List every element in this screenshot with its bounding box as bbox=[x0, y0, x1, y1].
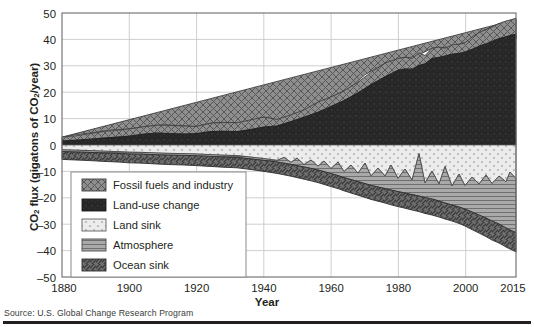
x-axis-ticks: 1880 1900 1920 1940 1960 1980 2000 2015 bbox=[51, 282, 525, 294]
bottom-rule bbox=[3, 321, 531, 324]
y-axis-title: CO2 flux (gigatons of CO2/year) bbox=[27, 17, 41, 277]
legend-swatch-land-sink bbox=[82, 219, 106, 231]
x-tick-label: 1920 bbox=[184, 282, 209, 294]
source-note: Source: U.S. Global Change Research Prog… bbox=[4, 308, 193, 318]
legend-label-atmosphere: Atmosphere bbox=[113, 239, 173, 251]
x-tick-label: 1880 bbox=[51, 282, 76, 294]
x-tick-label: 1980 bbox=[386, 282, 411, 294]
y-tick-label: 40 bbox=[43, 34, 56, 46]
x-tick-label: 2015 bbox=[500, 282, 525, 294]
x-tick-label: 2000 bbox=[453, 282, 478, 294]
legend-label-land-use-change: Land-use change bbox=[113, 199, 199, 211]
legend-swatch-fossil-fuels bbox=[82, 179, 106, 191]
y-tick-label: 0 bbox=[50, 140, 56, 152]
legend-label-ocean-sink: Ocean sink bbox=[113, 259, 169, 271]
x-axis-title: Year bbox=[0, 296, 534, 308]
co2-flux-chart: 50 40 30 20 10 0 –10 –20 –30 –40 –50 188… bbox=[0, 0, 534, 327]
y-tick-label: 20 bbox=[43, 87, 56, 99]
chart-legend: Fossil fuels and industry Land-use chang… bbox=[71, 172, 246, 277]
x-tick-label: 1940 bbox=[251, 282, 276, 294]
legend-swatch-land-use-change bbox=[82, 199, 106, 211]
y-tick-label: 30 bbox=[43, 60, 56, 72]
legend-swatch-ocean-sink bbox=[82, 259, 106, 271]
legend-label-land-sink: Land sink bbox=[113, 219, 161, 231]
y-tick-label: 50 bbox=[43, 8, 56, 20]
legend-label-fossil-fuels: Fossil fuels and industry bbox=[113, 179, 233, 191]
legend-swatch-atmosphere bbox=[82, 239, 106, 251]
co2-flux-figure: 50 40 30 20 10 0 –10 –20 –30 –40 –50 188… bbox=[0, 0, 534, 327]
y-tick-label: 10 bbox=[43, 113, 56, 125]
x-tick-label: 1900 bbox=[117, 282, 142, 294]
x-tick-label: 1960 bbox=[318, 282, 343, 294]
